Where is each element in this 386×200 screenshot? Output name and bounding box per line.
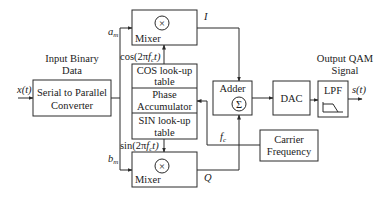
adder-label: Adder	[219, 83, 246, 94]
adder-block: Adder Σ	[213, 81, 252, 115]
sum-symbol: Σ	[236, 99, 242, 110]
phase-acc-line1: Phase	[152, 89, 177, 100]
carrier-frequency-block: Carrier Frequency	[260, 130, 318, 161]
input-signal-label: x(t)	[16, 84, 32, 96]
cos-signal-label: cos(2πfct)	[120, 51, 161, 64]
lower-mixer-label: Mixer	[135, 174, 161, 185]
lpf-block: LPF	[318, 81, 348, 117]
multiply-symbol: ×	[159, 18, 165, 29]
output-label-line1: Output QAM	[317, 53, 374, 64]
sin-lut-line1: SIN look-up	[138, 115, 190, 126]
s2p-line2: Converter	[51, 100, 93, 111]
carrier-line2: Frequency	[267, 146, 312, 157]
lpf-label: LPF	[324, 85, 342, 96]
bm-label: bm	[108, 153, 118, 166]
am-label: am	[108, 26, 118, 39]
fc-label: fc	[220, 131, 227, 144]
dac-block: DAC	[273, 81, 310, 115]
i-signal-line	[197, 28, 239, 81]
cos-lut-line2: table	[154, 76, 175, 87]
lower-mixer-block: × Mixer	[132, 152, 197, 187]
carrier-line1: Carrier	[274, 134, 304, 145]
input-label-line2: Data	[62, 65, 82, 76]
i-signal-label: I	[203, 11, 208, 22]
qam-modulator-diagram: Input Binary Data x(t) Serial to Paralle…	[0, 0, 386, 200]
phase-acc-line2: Accumulator	[137, 101, 192, 112]
q-signal-line	[197, 115, 239, 170]
output-signal-label: s(t)	[352, 84, 367, 96]
sin-signal-label: sin(2πfct)	[120, 140, 159, 153]
upper-mixer-block: × Mixer	[132, 10, 197, 45]
serial-to-parallel-block: Serial to Parallel Converter	[33, 80, 111, 116]
output-label-line2: Signal	[332, 65, 359, 76]
input-label-line1: Input Binary	[45, 53, 99, 64]
q-signal-label: Q	[204, 172, 212, 183]
dac-label: DAC	[280, 93, 302, 104]
s2p-line1: Serial to Parallel	[37, 87, 107, 98]
sin-lut-line2: table	[154, 127, 175, 138]
nco-stack: COS look-up table Phase Accumulator SIN …	[132, 64, 197, 139]
cos-lut-line1: COS look-up	[137, 65, 193, 76]
multiply-symbol: ×	[159, 161, 165, 172]
upper-mixer-label: Mixer	[135, 33, 161, 44]
